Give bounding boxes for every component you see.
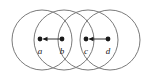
node-dot-a	[38, 37, 43, 42]
arrow-b-to-a	[43, 37, 63, 41]
node-dot-b	[60, 37, 65, 42]
node-dot-d	[106, 37, 111, 42]
figure-container: a b c d	[0, 0, 154, 82]
overlapping-circles-diagram: a b c d	[0, 0, 154, 82]
node-label-d: d	[106, 46, 111, 56]
node-label-a: a	[38, 46, 43, 56]
arrow-d-to-c-head	[89, 37, 94, 41]
node-dot-c	[84, 37, 89, 42]
arrow-b-to-a-head	[43, 37, 48, 41]
node-label-c: c	[84, 46, 88, 56]
node-label-b: b	[60, 46, 65, 56]
arrow-d-to-c	[89, 37, 109, 41]
